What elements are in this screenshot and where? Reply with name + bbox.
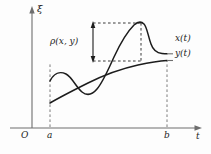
curve-y-of-t: [50, 61, 167, 104]
rho-measure-arrow-down-icon: [91, 56, 96, 63]
horizontal-axis-label: t: [196, 132, 200, 141]
vertical-axis-arrow-icon: [29, 6, 34, 14]
curve-label-y: y(t): [175, 49, 191, 58]
curve-label-x: x(t): [175, 34, 191, 43]
horizontal-axis-arrow-icon: [195, 125, 203, 130]
distance-annotation-label: ρ(x, y): [50, 37, 78, 46]
rho-measure-arrow-up-icon: [91, 21, 96, 28]
figure-svg: [0, 0, 211, 154]
vertical-axis-label: ξ: [37, 4, 43, 14]
tick-label-a: a: [47, 131, 52, 140]
figure-canvas: ξ t O a b x(t) y(t) ρ(x, y): [0, 0, 211, 154]
tick-label-b: b: [164, 131, 170, 140]
origin-label: O: [21, 131, 28, 140]
curve-x-of-t: [50, 22, 167, 94]
